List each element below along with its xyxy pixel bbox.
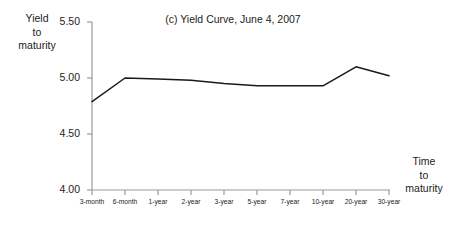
y-tick-label: 5.50 xyxy=(44,15,80,27)
y-tick-label: 5.00 xyxy=(44,71,80,83)
data-series xyxy=(92,67,389,102)
x-tick-label: 30-year xyxy=(365,198,413,205)
axes xyxy=(92,22,390,190)
series-line xyxy=(92,67,389,102)
tick-marks xyxy=(87,22,389,195)
y-tick-label: 4.00 xyxy=(44,183,80,195)
y-tick-label: 4.50 xyxy=(44,127,80,139)
yield-curve-chart: (c) Yield Curve, June 4, 2007 Yield to m… xyxy=(0,0,454,227)
